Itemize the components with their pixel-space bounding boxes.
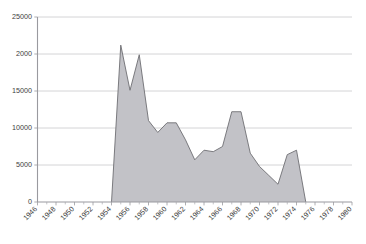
chart-canvas: 050001000015000200025000 194619481950195… bbox=[0, 0, 366, 244]
area-chart: 050001000015000200025000 194619481950195… bbox=[0, 0, 366, 244]
y-axis-tick-label: 25000 bbox=[12, 12, 32, 21]
y-axis-tick-label: 15000 bbox=[12, 86, 32, 95]
y-axis-tick-label: 5000 bbox=[16, 160, 32, 169]
y-axis-tick-label: 10000 bbox=[12, 123, 32, 132]
y-axis-tick-label: 2000 bbox=[16, 49, 32, 58]
